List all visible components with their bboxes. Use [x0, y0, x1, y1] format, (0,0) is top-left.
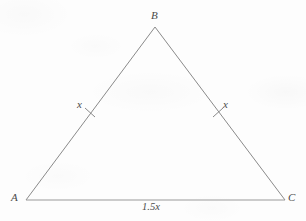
geometry-figure: A B C x x 1.5x: [0, 0, 306, 221]
side-bc-line: [155, 27, 285, 200]
side-label-ab: x: [77, 99, 82, 110]
vertex-label-c: C: [288, 192, 295, 203]
vertex-label-b: B: [151, 10, 158, 21]
side-label-bc: x: [223, 99, 228, 110]
triangle-graphic: [0, 0, 306, 221]
side-label-ac: 1.5x: [142, 202, 160, 213]
vertex-label-a: A: [11, 192, 18, 203]
